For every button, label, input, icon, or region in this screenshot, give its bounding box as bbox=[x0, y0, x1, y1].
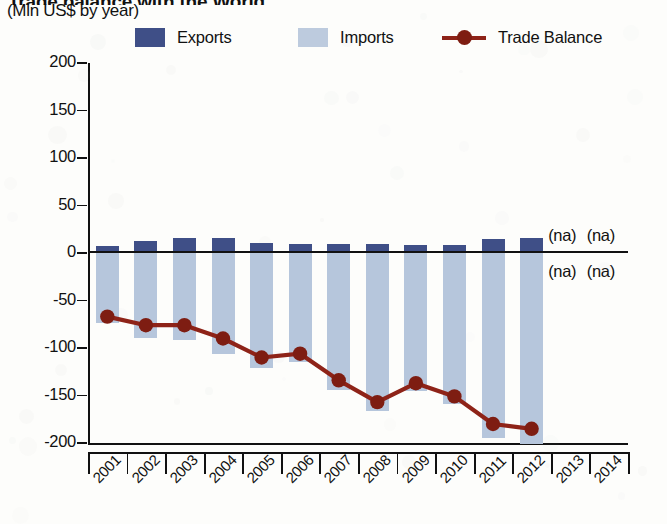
paper-texture-speck bbox=[390, 166, 404, 180]
paper-texture-speck bbox=[402, 455, 416, 469]
y-tick-label: 200 bbox=[10, 52, 76, 71]
x-tick bbox=[435, 452, 437, 474]
x-tick-label: 2004 bbox=[205, 451, 240, 486]
paper-texture-speck bbox=[495, 211, 509, 225]
x-tick-label: 2001 bbox=[89, 451, 124, 486]
legend-item-exports[interactable]: Exports bbox=[135, 26, 232, 48]
x-tick bbox=[628, 452, 630, 474]
bar-imports bbox=[482, 253, 505, 438]
na-label: (na) bbox=[548, 226, 576, 245]
paper-texture-speck bbox=[542, 435, 559, 452]
y-tick bbox=[77, 157, 87, 159]
paper-texture-speck bbox=[623, 25, 639, 41]
x-tick bbox=[589, 452, 591, 474]
paper-texture-speck bbox=[108, 193, 123, 208]
x-tick-label: 2007 bbox=[320, 451, 355, 486]
x-tick bbox=[358, 452, 360, 474]
legend-label-trade-balance: Trade Balance bbox=[498, 28, 602, 47]
paper-texture-speck bbox=[12, 507, 29, 524]
paper-texture-speck bbox=[623, 155, 631, 163]
paper-texture-speck bbox=[78, 69, 90, 81]
paper-texture-speck bbox=[272, 351, 285, 364]
paper-texture-speck bbox=[111, 159, 115, 163]
x-tick bbox=[242, 452, 244, 474]
bar-imports bbox=[173, 253, 196, 340]
y-tick bbox=[77, 252, 87, 254]
y-tick bbox=[77, 300, 87, 302]
y-tick-label: 0 bbox=[10, 242, 76, 261]
x-tick-label: 2012 bbox=[513, 451, 548, 486]
bar-imports bbox=[404, 253, 427, 391]
x-tick-label: 2013 bbox=[552, 451, 587, 486]
x-tick bbox=[474, 452, 476, 474]
paper-texture-speck bbox=[341, 35, 353, 47]
y-tick bbox=[77, 347, 87, 349]
paper-texture-speck bbox=[282, 377, 286, 381]
bar-imports bbox=[443, 253, 466, 404]
x-tick bbox=[281, 452, 283, 474]
bar-imports bbox=[366, 253, 389, 411]
bar-imports bbox=[250, 253, 273, 368]
x-tick bbox=[127, 452, 129, 474]
chart-subtitle: (Mln US$ by year) bbox=[7, 1, 139, 21]
y-tick-label: -50 bbox=[10, 290, 76, 309]
paper-texture-speck bbox=[638, 466, 648, 476]
exports-swatch-icon bbox=[135, 28, 165, 47]
paper-texture-speck bbox=[205, 387, 213, 395]
paper-texture-speck bbox=[384, 418, 397, 431]
paper-texture-speck bbox=[618, 492, 625, 499]
paper-texture-speck bbox=[90, 34, 106, 50]
legend-label-exports: Exports bbox=[177, 28, 232, 47]
paper-texture-speck bbox=[19, 437, 38, 456]
x-tick-label: 2010 bbox=[436, 451, 471, 486]
x-tick bbox=[512, 452, 514, 474]
y-tick bbox=[77, 62, 87, 64]
trade-balance-line bbox=[88, 63, 628, 453]
x-tick-label: 2008 bbox=[359, 451, 394, 486]
x-tick bbox=[551, 452, 553, 474]
bar-imports bbox=[520, 253, 543, 444]
paper-texture-speck bbox=[489, 471, 496, 478]
y-tick-label: -100 bbox=[10, 337, 76, 356]
paper-texture-speck bbox=[346, 91, 359, 104]
paper-texture-speck bbox=[55, 364, 67, 376]
x-tick-label: 2003 bbox=[166, 451, 201, 486]
x-tick-label: 2014 bbox=[590, 451, 625, 486]
y-tick bbox=[77, 205, 87, 207]
paper-texture-speck bbox=[576, 128, 590, 142]
na-label: (na) bbox=[548, 262, 576, 281]
y-tick bbox=[77, 395, 87, 397]
bar-imports bbox=[134, 253, 157, 338]
x-tick bbox=[88, 452, 90, 474]
y-tick-label: 50 bbox=[10, 195, 76, 214]
bar-imports bbox=[289, 253, 312, 362]
y-tick-label: 100 bbox=[10, 147, 76, 166]
x-tick-label: 2002 bbox=[128, 451, 163, 486]
bar-imports bbox=[96, 253, 119, 323]
paper-texture-speck bbox=[378, 124, 391, 137]
paper-texture-speck bbox=[420, 13, 427, 20]
trade-balance-marker-icon bbox=[442, 28, 486, 47]
x-tick bbox=[319, 452, 321, 474]
y-tick bbox=[77, 110, 87, 112]
paper-texture-speck bbox=[465, 332, 475, 342]
paper-texture-speck bbox=[4, 177, 17, 190]
paper-texture-speck bbox=[48, 126, 67, 145]
x-tick-label: 2006 bbox=[282, 451, 317, 486]
paper-texture-speck bbox=[7, 212, 17, 222]
y-tick bbox=[77, 442, 87, 444]
x-tick-label: 2011 bbox=[475, 452, 509, 486]
paper-texture-speck bbox=[166, 65, 176, 75]
paper-texture-speck bbox=[174, 398, 181, 405]
paper-texture-speck bbox=[627, 89, 643, 105]
zero-baseline bbox=[88, 251, 628, 253]
paper-texture-speck bbox=[320, 218, 324, 222]
x-tick bbox=[204, 452, 206, 474]
paper-texture-speck bbox=[545, 463, 550, 468]
paper-texture-speck bbox=[530, 40, 548, 58]
imports-swatch-icon bbox=[298, 28, 328, 47]
bar-imports bbox=[212, 253, 235, 354]
y-tick-label: -150 bbox=[10, 385, 76, 404]
paper-texture-speck bbox=[324, 91, 338, 105]
